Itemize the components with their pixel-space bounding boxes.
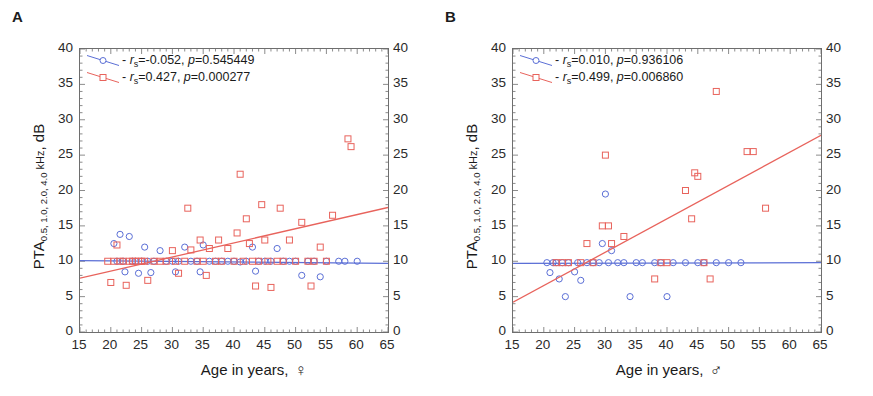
regression-line-red [80,207,388,278]
data-point [621,233,627,239]
data-point [305,258,311,264]
x-tick-label: 30 [589,338,619,352]
data-point [744,149,750,155]
y-tick-label-right: 20 [826,183,852,197]
data-point [237,171,243,177]
data-point [750,149,756,155]
data-point [268,284,274,290]
y-tick-label-left: 25 [47,147,73,161]
data-point [274,245,280,251]
y-title-unit: , dB [463,124,480,151]
y-tick-label-left: 10 [47,253,73,267]
x-tick-label: 45 [249,338,279,352]
y-tick-label-left: 5 [480,289,506,303]
y-tick-label-right: 40 [393,41,419,55]
legend-red-p-label: p [617,70,624,84]
data-point [234,230,240,236]
y-tick-label-right: 10 [826,253,852,267]
legend-blue-p-value: =0.936106 [624,53,683,67]
panel-b-y-axis-title: PTA0.5, 1.0, 2.0, 4.0 kHz, dB [463,82,480,312]
panel-b-plot-area [512,48,822,333]
legend-entry-blue: - rs=-0.052, p=0.545449 [86,52,254,69]
data-point [299,272,305,278]
x-tick-label: 50 [713,338,743,352]
y-tick-label-right: 5 [393,289,419,303]
legend-red-p-value: =0.006860 [624,70,683,84]
data-point [126,233,132,239]
data-point [216,237,222,243]
x-title-text: Age in years, [201,361,289,378]
legend-key-red-square [519,70,553,85]
data-point [763,205,769,211]
y-tick-label-left: 0 [480,324,506,338]
panel-a-y-axis-title: PTA0.5, 1.0, 2.0, 4.0 kHz, dB [30,82,47,312]
legend-entry-red: - rs=0.427, p=0.000277 [86,69,254,86]
y-tick-label-left: 40 [480,41,506,55]
data-point [117,231,123,237]
y-tick-label-left: 5 [47,289,73,303]
y-tick-label-left: 30 [47,112,73,126]
y-tick-label-left: 35 [480,76,506,90]
data-point [348,144,354,150]
data-point [707,276,713,282]
legend-red-r-sub: s [134,76,139,86]
y-tick-label-right: 0 [826,324,852,338]
regression-line-red [513,135,821,302]
legend-red-p-label: p [184,70,191,84]
data-point [123,282,129,288]
data-point [713,88,719,94]
x-tick-label: 55 [743,338,773,352]
legend-text-red: - rs=0.427, p=0.000277 [122,70,250,84]
male-symbol-icon: ♂ [703,361,722,380]
legend-red-p-value: =0.000277 [191,70,250,84]
legend-red-r-value: =0.499, [571,70,613,84]
x-tick-label: 25 [559,338,589,352]
x-tick-label: 15 [497,338,527,352]
legend-blue-r-value: =-0.052, [138,53,184,67]
x-title-text: Age in years, [616,361,704,378]
data-point [627,294,633,300]
y-tick-label-left: 35 [47,76,73,90]
legend-blue-p-label: p [188,53,195,67]
y-tick-label-left: 40 [47,41,73,55]
y-tick-label-right: 15 [393,218,419,232]
data-point [599,223,605,229]
data-point [169,248,175,254]
y-tick-label-right: 20 [393,183,419,197]
panel-a-legend: - rs=-0.052, p=0.545449 - rs=0.427, p=0.… [86,52,254,86]
panel-b: B PTA0.5, 1.0, 2.0, 4.0 kHz, dB - rs=0.0… [437,0,873,396]
y-tick-label-right: 35 [826,76,852,90]
x-tick-label: 50 [280,338,310,352]
data-point [145,277,151,283]
y-tick-label-left: 0 [47,324,73,338]
legend-key-red-square [86,70,120,85]
y-tick-label-left: 25 [480,147,506,161]
y-tick-label-right: 30 [826,112,852,126]
panel-b-legend: - rs=0.010, p=0.936106 - rs=0.499, p=0.0… [519,52,683,86]
data-point [286,258,292,264]
data-point [689,216,695,222]
legend-entry-blue: - rs=0.010, p=0.936106 [519,52,683,69]
y-title-main: PTA [463,241,480,269]
panel-b-letter: B [445,8,456,25]
legend-blue-r-sub: s [134,59,139,69]
y-tick-label-left: 20 [47,183,73,197]
x-tick-label: 15 [64,338,94,352]
data-point [259,202,265,208]
series-red [513,88,821,302]
y-tick-label-left: 30 [480,112,506,126]
data-point [108,279,114,285]
panel-a-plot-area [79,48,389,333]
panel-b-x-axis-title: Age in years,♂ [437,361,873,381]
data-point [231,258,237,264]
data-point [185,205,191,211]
data-point [602,152,608,158]
y-tick-label-right: 30 [393,112,419,126]
legend-key-blue-circle [519,53,553,68]
data-point [605,223,611,229]
scatter-canvas [80,49,388,332]
legend-blue-r-sub: s [567,59,572,69]
axis-ticks [513,49,821,332]
x-tick-label: 40 [651,338,681,352]
x-tick-label: 40 [218,338,248,352]
